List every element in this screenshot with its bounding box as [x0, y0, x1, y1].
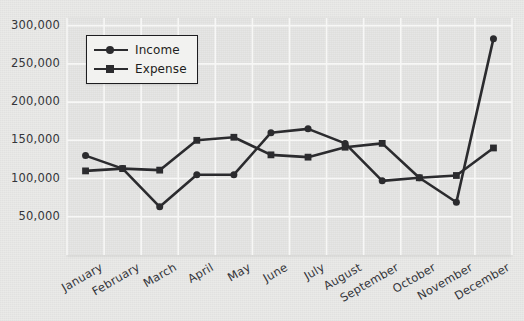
data-point-income-november — [453, 199, 460, 206]
data-point-expense-august — [342, 144, 349, 151]
data-point-income-march — [156, 203, 163, 210]
data-point-expense-june — [268, 151, 275, 158]
data-point-expense-may — [230, 134, 237, 141]
data-point-income-september — [379, 177, 386, 184]
data-point-income-december — [490, 35, 497, 42]
legend-label: Income — [135, 43, 180, 57]
legend-circle-marker-icon — [94, 43, 128, 57]
data-point-income-april — [193, 171, 200, 178]
data-point-expense-december — [490, 145, 497, 152]
y-tick-label: 200,000 — [0, 94, 60, 108]
data-point-income-january — [82, 152, 89, 159]
data-point-expense-november — [453, 172, 460, 179]
y-tick-label: 150,000 — [0, 132, 60, 146]
chart-legend: IncomeExpense — [86, 35, 198, 84]
data-point-expense-april — [193, 137, 200, 144]
data-point-income-july — [305, 125, 312, 132]
legend-item-income[interactable]: Income — [94, 40, 187, 59]
y-tick-label: 250,000 — [0, 56, 60, 70]
y-tick-label: 300,000 — [0, 18, 60, 32]
data-point-expense-july — [305, 154, 312, 161]
y-tick-label: 50,000 — [0, 209, 60, 223]
legend-item-expense[interactable]: Expense — [94, 59, 187, 78]
legend-square-marker-icon — [94, 62, 128, 76]
data-point-expense-october — [416, 174, 423, 181]
data-point-expense-september — [379, 140, 386, 147]
data-point-expense-march — [156, 167, 163, 174]
y-tick-label: 100,000 — [0, 171, 60, 185]
data-point-income-may — [230, 171, 237, 178]
data-point-income-june — [267, 129, 274, 136]
legend-label: Expense — [135, 62, 187, 76]
data-point-expense-february — [119, 165, 126, 172]
chart-figure: 50,000100,000150,000200,000250,000300,00… — [0, 0, 524, 321]
data-point-expense-january — [82, 168, 89, 175]
